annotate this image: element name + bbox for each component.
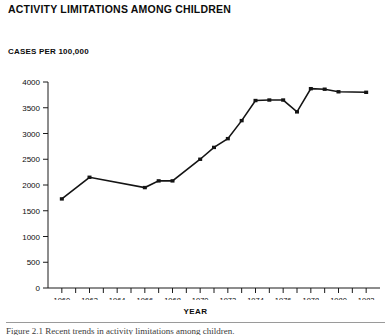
y-tick-group: 05001000150020002500300035004000 xyxy=(22,78,48,293)
data-point-marker xyxy=(337,90,341,93)
figure-caption: Figure 2.1 Recent trends in activity lim… xyxy=(6,326,385,335)
data-series-line xyxy=(62,89,366,199)
x-tick-label: 1978 xyxy=(302,296,319,300)
y-tick-label: 3000 xyxy=(22,130,40,139)
y-tick-label: 500 xyxy=(27,258,41,267)
x-tick-label: 1976 xyxy=(275,296,292,300)
data-point-marker xyxy=(212,146,216,149)
x-tick-group: 1960196219641966196819701972197419761978… xyxy=(53,288,374,300)
data-point-marker xyxy=(143,186,147,189)
data-point-markers xyxy=(60,87,368,201)
chart-plot-area: 05001000150020002500300035004000 1960196… xyxy=(0,0,391,300)
y-tick-label: 3500 xyxy=(22,104,40,113)
caption-divider xyxy=(6,322,385,323)
data-point-marker xyxy=(157,179,161,182)
x-tick-label: 1974 xyxy=(247,296,264,300)
data-point-marker xyxy=(198,158,202,161)
y-tick-label: 4000 xyxy=(22,78,40,87)
data-point-marker xyxy=(171,179,175,182)
x-tick-label: 1962 xyxy=(81,296,98,300)
x-tick-label: 1980 xyxy=(330,296,347,300)
x-tick-label: 1970 xyxy=(192,296,209,300)
data-point-marker xyxy=(309,87,313,90)
x-tick-label: 1982 xyxy=(358,296,375,300)
y-tick-label: 0 xyxy=(36,284,41,293)
x-tick-label: 1968 xyxy=(164,296,181,300)
data-point-marker xyxy=(323,88,327,91)
x-axis-label: YEAR xyxy=(0,307,391,316)
y-tick-label: 2000 xyxy=(22,181,40,190)
data-point-marker xyxy=(295,110,299,113)
data-point-marker xyxy=(254,99,258,102)
data-point-marker xyxy=(281,98,285,101)
data-point-marker xyxy=(88,176,92,179)
x-tick-label: 1960 xyxy=(53,296,70,300)
data-point-marker xyxy=(240,119,244,122)
x-tick-label: 1972 xyxy=(219,296,236,300)
line-chart-svg: 05001000150020002500300035004000 1960196… xyxy=(0,0,391,300)
x-tick-label: 1964 xyxy=(109,296,126,300)
x-tick-label: 1966 xyxy=(136,296,153,300)
data-point-marker xyxy=(267,98,271,101)
y-tick-label: 2500 xyxy=(22,155,40,164)
y-tick-label: 1500 xyxy=(22,207,40,216)
data-point-marker xyxy=(226,137,230,140)
y-tick-label: 1000 xyxy=(22,233,40,242)
data-point-marker xyxy=(364,91,368,94)
data-point-marker xyxy=(60,197,64,200)
